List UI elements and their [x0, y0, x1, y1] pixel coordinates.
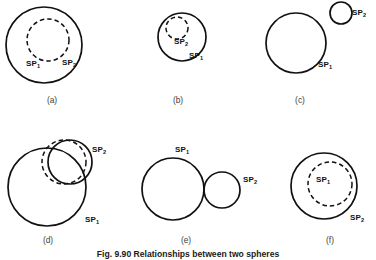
panel-a: SP1SP2(a) [6, 7, 82, 105]
sp2-label-subscript: 2 [363, 12, 366, 18]
panel-f: SP1SP2(f) [291, 153, 364, 245]
sp2-label-subscript: 2 [254, 179, 257, 185]
sp2-outer-circle [291, 153, 357, 219]
sp2-label: SP2 [92, 145, 106, 155]
panels-group: SP1SP2(a)SP2SP1(b)SP2SP1(c)SP2SP1(d)SP1S… [6, 2, 366, 245]
sp1-label-subscript: 1 [186, 149, 189, 155]
sp2-label: SP2 [243, 175, 257, 185]
sp1-label-subscript: 1 [37, 63, 40, 69]
panel-label-f: (f) [326, 235, 334, 245]
sp2-label-subscript: 2 [185, 41, 188, 47]
sp2-label: SP2 [352, 8, 366, 18]
sp2-label-subscript: 2 [103, 149, 106, 155]
panel-label-e: (e) [181, 235, 191, 245]
sp1-label: SP1 [85, 215, 99, 225]
sp1-large-circle [8, 148, 86, 226]
sp1-label-subscript: 1 [200, 55, 203, 61]
sp2-label: SP2 [350, 213, 364, 223]
sp2-inner-circle [166, 17, 188, 39]
panel-label-c: (c) [295, 95, 305, 105]
sp1-label: SP1 [175, 145, 189, 155]
sp2-label-subscript: 2 [361, 217, 364, 223]
panel-label-d: (d) [43, 235, 53, 245]
sp1-label: SP1 [318, 60, 332, 70]
sp2-label: SP2 [62, 58, 76, 68]
panel-label-a: (a) [47, 95, 57, 105]
panel-b: SP2SP1(b) [158, 13, 206, 105]
sp1-large-circle [142, 158, 204, 220]
sp1-label-subscript: 1 [329, 64, 332, 70]
sp2-label-subscript: 2 [73, 62, 76, 68]
sp1-label: SP1 [26, 59, 40, 69]
sp1-label-subscript: 1 [327, 179, 330, 185]
panel-label-b: (b) [173, 95, 183, 105]
sp2-outer-circle [6, 7, 82, 83]
figure-container: SP1SP2(a)SP2SP1(b)SP2SP1(c)SP2SP1(d)SP1S… [0, 0, 376, 260]
panel-e: SP1SP2(e) [142, 145, 257, 245]
sp2-small-circle [204, 172, 240, 208]
sp1-label-subscript: 1 [96, 219, 99, 225]
figure-canvas: SP1SP2(a)SP2SP1(b)SP2SP1(c)SP2SP1(d)SP1S… [0, 0, 376, 260]
panel-c: SP2SP1(c) [266, 2, 366, 105]
figure-caption: Fig. 9.90 Relationships between two sphe… [97, 249, 280, 259]
panel-d: SP2SP1(d) [8, 140, 106, 245]
sp2-small-circle [330, 2, 352, 24]
sp2-label: SP2 [174, 37, 188, 47]
sp1-large-circle [266, 13, 326, 73]
sp1-label: SP1 [316, 175, 330, 185]
sp1-inner-circle [27, 19, 69, 61]
